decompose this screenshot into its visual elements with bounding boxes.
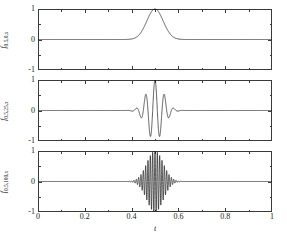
y-axis-label: f0.5,100,x <box>0 147 8 217</box>
curve-1 <box>38 9 272 70</box>
y-tick-label: -1 <box>28 137 35 145</box>
curve-3 <box>38 151 272 212</box>
x-tick-label: 1 <box>270 213 274 221</box>
figure-gabor-wavelets: -101f0.5,0,x-101f0.5,25,x-10100.20.40.60… <box>0 0 287 239</box>
y-axis-label-subscript: 0.5,25,x <box>3 101 9 119</box>
curve-path <box>38 80 272 137</box>
plot-panel-3: -10100.20.40.60.81f0.5,100,x <box>38 151 272 212</box>
plot-panel-1: -101f0.5,0,x <box>38 9 272 70</box>
x-tick-label: 0.8 <box>220 213 230 221</box>
x-tick-label: 0.6 <box>173 213 183 221</box>
y-tick-label: 0 <box>31 36 35 44</box>
y-axis-label-subscript: 0.5,100,x <box>3 170 9 190</box>
y-axis-label-symbol: f <box>0 46 8 48</box>
y-tick-label: 1 <box>31 147 35 155</box>
y-tick-label: 0 <box>31 178 35 186</box>
x-tick-label: 0.2 <box>80 213 90 221</box>
y-tick-label: 0 <box>31 107 35 115</box>
curve-2 <box>38 80 272 141</box>
y-tick-label: -1 <box>28 208 35 216</box>
plot-panel-2: -101f0.5,25,x <box>38 80 272 141</box>
y-axis-label: f0.5,0,x <box>0 5 8 75</box>
x-axis-label: t <box>38 225 272 233</box>
x-tick-label: 0.4 <box>127 213 137 221</box>
y-tick-label: -1 <box>28 66 35 74</box>
y-axis-label: f0.5,25,x <box>0 76 8 146</box>
curve-path <box>38 151 272 212</box>
curve-path <box>38 9 272 40</box>
y-tick-label: 1 <box>31 5 35 13</box>
y-axis-label-subscript: 0.5,0,x <box>3 31 9 46</box>
x-tick-label: 0 <box>36 213 40 221</box>
y-tick-label: 1 <box>31 76 35 84</box>
